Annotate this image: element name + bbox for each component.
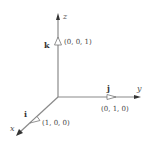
i-vector-coords: (1, 0, 0) [42,119,70,127]
j-vector-coords: (0, 1, 0) [101,105,129,113]
y-axis-arrowhead-icon [134,95,141,99]
j-vector-label: j [106,83,110,93]
y-axis-label: y [136,84,142,93]
j-vector-arrow-icon [107,95,116,100]
coordinate-diagram: z y x k j i (0, 0, 1) (0, 1, 0) (1, 0, 0… [0,0,157,142]
k-vector-coords: (0, 0, 1) [64,38,92,46]
i-vector-label: i [24,109,27,119]
x-axis-label: x [10,124,15,133]
z-axis-arrowhead-icon [56,13,60,20]
k-vector-label: k [44,40,50,50]
z-axis-label: z [62,12,68,21]
k-vector-arrow-icon [55,37,62,45]
